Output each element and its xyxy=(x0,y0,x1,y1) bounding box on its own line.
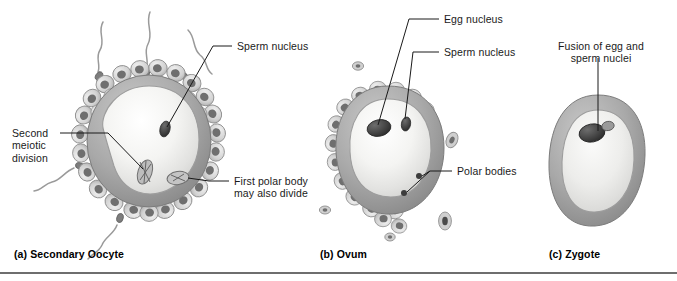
label-sperm-nucleus-a: Sperm nucleus xyxy=(237,40,308,52)
caption-panel-b: (b) Ovum xyxy=(320,248,367,260)
label-fusion-of-nuclei: Fusion of egg and sperm nuclei xyxy=(549,40,653,65)
label-egg-nucleus: Egg nucleus xyxy=(444,13,503,25)
fertilization-figure: Sperm nucleus Second meiotic division Fi… xyxy=(0,0,677,281)
panel-b-artwork xyxy=(319,19,460,241)
bottom-divider xyxy=(0,272,677,274)
panel-c-artwork xyxy=(549,58,645,226)
cytoplasm-b xyxy=(350,99,431,197)
label-second-meiotic-division: Second meiotic division xyxy=(12,127,48,164)
caption-panel-a: (a) Secondary Oocyte xyxy=(14,248,124,260)
panel-a-artwork xyxy=(34,12,232,259)
label-sperm-nucleus-b: Sperm nucleus xyxy=(444,46,515,58)
caption-panel-c: (c) Zygote xyxy=(549,248,600,260)
label-polar-bodies: Polar bodies xyxy=(457,165,517,177)
label-first-polar-body: First polar body may also divide xyxy=(234,175,308,200)
